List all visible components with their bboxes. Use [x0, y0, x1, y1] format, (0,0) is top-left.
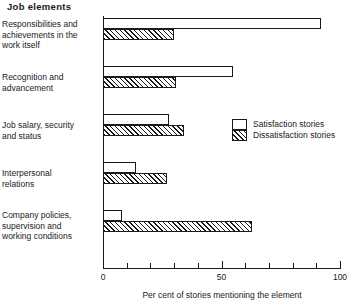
x-axis-tick-10 [127, 263, 128, 268]
x-axis-tick-20 [150, 263, 151, 268]
bar-dissatisfaction-1 [103, 77, 176, 88]
x-axis-tick-30 [174, 263, 175, 268]
x-axis-tick-100 [340, 261, 341, 268]
category-label-2: Job salary, security and status [2, 120, 98, 141]
x-axis-tick-90 [316, 263, 317, 268]
x-axis-tick-70 [269, 263, 270, 268]
legend-label-dissatisfaction: Dissatisfaction stories [253, 130, 335, 141]
category-label-0: Responsibilities and achievements in the… [2, 19, 98, 51]
bar-dissatisfaction-2 [103, 125, 184, 136]
x-axis-line [103, 268, 341, 269]
bar-satisfaction-3 [103, 162, 136, 173]
bar-dissatisfaction-3 [103, 173, 167, 184]
bar-chart: Job elements 050100 Responsibilities and… [0, 0, 358, 308]
x-axis-tick-50 [222, 261, 223, 268]
bar-satisfaction-1 [103, 66, 233, 77]
x-axis-tick-80 [293, 263, 294, 268]
bar-satisfaction-0 [103, 18, 321, 29]
x-axis-tick-label-0: 0 [101, 272, 106, 282]
category-label-4: Company policies, supervision and workin… [2, 210, 98, 242]
legend-swatch-satisfaction [232, 119, 247, 130]
x-axis-tick-0 [103, 261, 104, 268]
bar-dissatisfaction-0 [103, 29, 174, 40]
chart-title: Job elements [7, 1, 71, 12]
bar-dissatisfaction-4 [103, 221, 252, 232]
x-axis-tick-60 [245, 263, 246, 268]
bar-satisfaction-2 [103, 114, 169, 125]
category-label-1: Recognition and advancement [2, 72, 98, 93]
legend-swatch-dissatisfaction [232, 130, 247, 141]
category-label-3: Interpersonal relations [2, 168, 98, 189]
x-axis-tick-label-100: 100 [333, 272, 347, 282]
x-axis-tick-40 [198, 263, 199, 268]
bar-satisfaction-4 [103, 210, 122, 221]
legend-label-satisfaction: Satisfaction stories [253, 119, 324, 130]
x-axis-title: Per cent of stories mentioning the eleme… [142, 290, 301, 300]
x-axis-tick-label-50: 50 [217, 272, 226, 282]
